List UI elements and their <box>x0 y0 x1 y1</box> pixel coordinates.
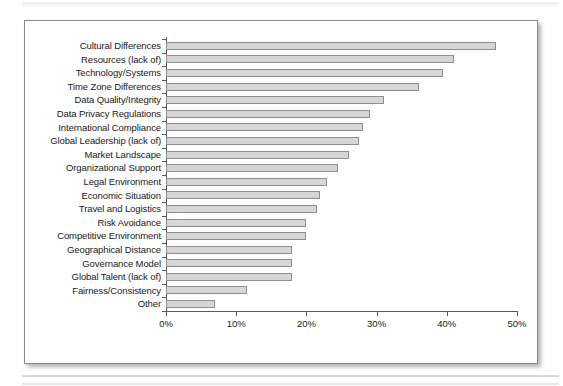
x-axis-tick-label: 40% <box>437 318 456 329</box>
y-axis-tick <box>162 175 166 176</box>
bar <box>166 286 247 294</box>
bar-row: Governance Model <box>25 257 537 271</box>
bar <box>166 55 454 63</box>
bar-row: Resources (lack of) <box>25 53 537 67</box>
bar-category-label: Competitive Environment <box>25 231 166 241</box>
bar-category-label: Other <box>25 299 166 309</box>
x-axis-tick <box>447 312 448 316</box>
bar-row: Risk Avoidance <box>25 216 537 230</box>
bar-track <box>166 175 537 189</box>
bar-row: International Compliance <box>25 121 537 135</box>
x-axis-tick <box>236 312 237 316</box>
bar <box>166 273 292 281</box>
bar-row: Data Quality/Integrity <box>25 93 537 107</box>
x-axis-tick-label: 10% <box>227 318 246 329</box>
y-axis-tick <box>162 284 166 285</box>
bar-track <box>166 39 537 53</box>
x-axis-tick <box>377 312 378 316</box>
bar-track <box>166 202 537 216</box>
bar <box>166 300 215 308</box>
bar-row: Other <box>25 297 537 311</box>
y-axis-tick <box>162 202 166 203</box>
bar-rows: Cultural DifferencesResources (lack of)T… <box>25 39 537 311</box>
bar-track <box>166 121 537 135</box>
bar-track <box>166 107 537 121</box>
bar-row: Fairness/Consistency <box>25 284 537 298</box>
bar-row: Market Landscape <box>25 148 537 162</box>
bar <box>166 137 359 145</box>
bar <box>166 151 349 159</box>
y-axis-tick <box>162 80 166 81</box>
bar-track <box>166 284 537 298</box>
bar-track <box>166 161 537 175</box>
bar <box>166 110 370 118</box>
bar <box>166 178 327 186</box>
y-axis-tick <box>162 148 166 149</box>
bar <box>166 205 317 213</box>
bar-track <box>166 80 537 94</box>
bar-row: Travel and Logistics <box>25 202 537 216</box>
bar-track <box>166 297 537 311</box>
bar-row: Global Talent (lack of) <box>25 270 537 284</box>
x-axis-tick <box>517 312 518 316</box>
page-bottom-rule-secondary <box>22 383 559 385</box>
bar-category-label: Global Leadership (lack of) <box>25 136 166 146</box>
bar-category-label: Risk Avoidance <box>25 218 166 228</box>
bar-track <box>166 148 537 162</box>
y-axis-tick <box>162 257 166 258</box>
chart-frame: Cultural DifferencesResources (lack of)T… <box>24 20 538 364</box>
bar-track <box>166 53 537 67</box>
bar-track <box>166 216 537 230</box>
x-axis-tick-label: 0% <box>159 318 173 329</box>
bar <box>166 42 496 50</box>
bar-category-label: Time Zone Differences <box>25 82 166 92</box>
bar-track <box>166 189 537 203</box>
bar-category-label: Resources (lack of) <box>25 55 166 65</box>
bar-category-label: Data Quality/Integrity <box>25 95 166 105</box>
x-axis-tick <box>166 312 167 316</box>
bar-category-label: Data Privacy Regulations <box>25 109 166 119</box>
y-axis-tick <box>162 161 166 162</box>
bar-category-label: Cultural Differences <box>25 41 166 51</box>
plot-area: Cultural DifferencesResources (lack of)T… <box>25 21 537 363</box>
bar-row: Competitive Environment <box>25 229 537 243</box>
x-axis-tick-label: 20% <box>297 318 316 329</box>
bar <box>166 83 419 91</box>
bar-category-label: Market Landscape <box>25 150 166 160</box>
bar <box>166 246 292 254</box>
bar-row: Global Leadership (lack of) <box>25 134 537 148</box>
y-axis-tick <box>162 270 166 271</box>
bar <box>166 164 338 172</box>
bar-category-label: Fairness/Consistency <box>25 286 166 296</box>
bar-category-label: International Compliance <box>25 123 166 133</box>
bar-track <box>166 66 537 80</box>
bar-row: Data Privacy Regulations <box>25 107 537 121</box>
y-axis-tick <box>162 53 166 54</box>
x-axis-tick-label: 50% <box>507 318 526 329</box>
y-axis-tick <box>162 93 166 94</box>
bar-category-label: Travel and Logistics <box>25 204 166 214</box>
bar-track <box>166 134 537 148</box>
bar <box>166 259 292 267</box>
bar-row: Time Zone Differences <box>25 80 537 94</box>
bar <box>166 123 363 131</box>
bar-row: Technology/Systems <box>25 66 537 80</box>
bar <box>166 96 384 104</box>
bar-category-label: Economic Situation <box>25 191 166 201</box>
bar <box>166 191 320 199</box>
y-axis-tick <box>162 297 166 298</box>
bar-track <box>166 229 537 243</box>
x-axis-line <box>166 311 518 312</box>
bar-category-label: Geographical Distance <box>25 245 166 255</box>
y-axis-tick <box>162 229 166 230</box>
bar-track <box>166 257 537 271</box>
y-axis-tick <box>162 216 166 217</box>
bar-track <box>166 93 537 107</box>
y-axis-tick <box>162 134 166 135</box>
page-top-band <box>22 2 559 7</box>
y-axis-tick <box>162 121 166 122</box>
bar-row: Organizational Support <box>25 161 537 175</box>
y-axis-tick <box>162 311 166 312</box>
bar <box>166 69 443 77</box>
y-axis-tick <box>162 107 166 108</box>
